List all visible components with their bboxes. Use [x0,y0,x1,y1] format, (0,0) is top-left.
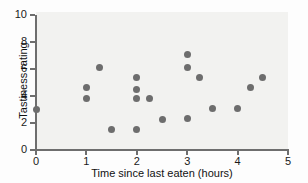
y-axis-tick [30,122,35,124]
data-point [133,74,140,81]
data-point [234,105,241,112]
y-axis-tick-label: 0 [2,143,27,156]
y-axis-tick [30,95,35,97]
data-point [96,64,103,71]
data-point [159,116,166,123]
y-axis-title: Tastiness rating [17,21,30,141]
x-axis-line [36,149,289,151]
data-point [184,64,191,71]
x-axis-title: Time since last eaten (hours) [36,167,288,180]
scatter-plot-figure: 0123450246810 Time since last eaten (hou… [0,0,308,183]
data-point [247,84,254,91]
y-axis-tick [30,14,35,16]
data-point [184,51,191,58]
y-axis-line [35,15,37,151]
data-point [259,74,266,81]
y-axis-tick-label: 10 [2,8,27,21]
data-point [133,126,140,133]
y-axis-tick [30,149,35,151]
y-axis-tick [30,68,35,70]
data-point [196,74,203,81]
y-axis-tick [30,41,35,43]
plot-panel [36,12,288,150]
